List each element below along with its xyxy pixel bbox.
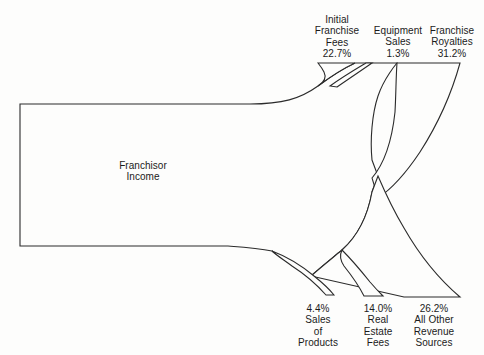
node-label-initial-franchise-fees: Initial Franchise Fees 22.7% xyxy=(306,14,368,60)
node-label-all-other-revenue-sources: 26.2% All Other Revenue Sources xyxy=(403,303,465,349)
sankey-diagram: Franchisor Income Initial Franchise Fees… xyxy=(0,0,484,355)
node-label-franchise-royalties: Franchise Royalties 31.2% xyxy=(421,25,483,59)
node-label-real-estate-fees: 14.0% Real Estate Fees xyxy=(353,303,403,349)
node-label-franchisor-income: Franchisor Income xyxy=(78,160,208,183)
node-label-sales-of-products: 4.4% Sales of Products xyxy=(289,303,347,349)
flow-band-franchise-royalties xyxy=(372,63,460,198)
flow-band-franchisor-income-trunk xyxy=(20,63,397,276)
